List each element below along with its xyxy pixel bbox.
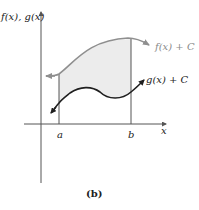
curve-g-label: g(x) + C (146, 74, 189, 85)
tick-label-b: b (128, 129, 134, 140)
figure-caption: (b) (86, 188, 102, 199)
integral-area-diagram: f(x), g(x) f(x) + C g(x) + C a b x (b) (0, 0, 199, 210)
curve-g-left-arrow (51, 107, 56, 113)
x-axis-label: x (161, 125, 167, 136)
y-axis-label: f(x), g(x) (0, 11, 44, 22)
tick-label-a: a (57, 129, 63, 140)
curve-f-label: f(x) + C (154, 41, 195, 52)
